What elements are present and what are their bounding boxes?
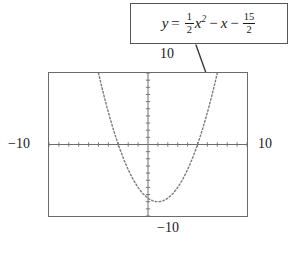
- equation-x-squared-base: x: [195, 16, 202, 31]
- equation-linear-x: x: [221, 16, 228, 31]
- window-label-right: 10: [258, 136, 272, 152]
- coefficient-denominator: 2: [186, 25, 193, 36]
- coefficient-numerator: 1: [186, 12, 193, 23]
- equation-y: y: [162, 16, 169, 31]
- equation-minus-second: −: [230, 16, 238, 31]
- axes-group: [49, 73, 247, 216]
- plot-area: [49, 73, 247, 216]
- figure-container: y = 1 2 x2 − x − 15 2 10 −10 −10 10: [0, 0, 296, 255]
- window-label-top: 10: [160, 46, 174, 62]
- equation-expression: y = 1 2 x2 − x − 15 2: [162, 12, 257, 35]
- constant-numerator: 15: [243, 12, 256, 23]
- equation-minus-first: −: [209, 16, 217, 31]
- equation-exponent: 2: [201, 15, 206, 25]
- equation-callout-box: y = 1 2 x2 − x − 15 2: [130, 3, 288, 44]
- window-label-bottom: −10: [157, 220, 179, 236]
- coefficient-fraction: 1 2: [185, 12, 194, 35]
- parabola-curve: [99, 73, 218, 202]
- constant-fraction: 15 2: [243, 12, 256, 35]
- graphing-window: [48, 72, 248, 217]
- equation-equals: =: [171, 16, 179, 31]
- constant-denominator: 2: [245, 25, 252, 36]
- window-label-left: −10: [8, 136, 30, 152]
